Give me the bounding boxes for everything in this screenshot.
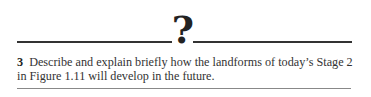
answer-rule [17,88,351,89]
header-rule-right [193,41,352,43]
question-mark-icon: ? [170,8,196,52]
question-text: Describe and explain briefly how the lan… [17,55,353,83]
question-block: 3 Describe and explain briefly how the l… [17,56,357,83]
question-number: 3 [17,55,23,69]
header-rule-left [17,41,172,43]
